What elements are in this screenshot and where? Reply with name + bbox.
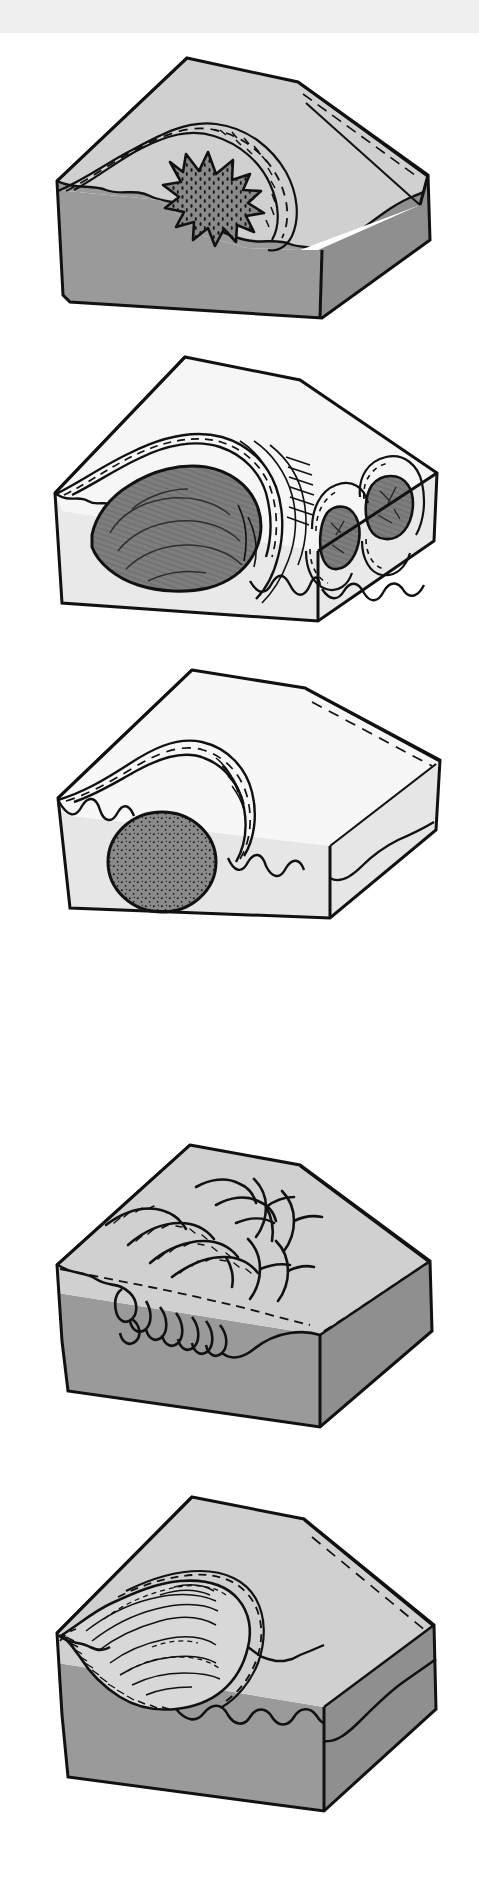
figure-sheet: Cut block with light gray upper band and… — [0, 0, 479, 1887]
panel-stellate-infiltrating-lesion-block — [0, 50, 479, 350]
panel2-small-nodule-right — [366, 476, 413, 539]
panel3-round-lesion — [108, 812, 216, 912]
panel-circumscribed-round-lesion-block — [0, 640, 479, 940]
panel-multinodular-mass-block — [0, 345, 479, 645]
panel-surface-branching-lesion-block — [0, 1135, 479, 1435]
panel-diffuse-expansile-lesion-block — [0, 1485, 479, 1825]
top-margin-band — [0, 0, 479, 33]
